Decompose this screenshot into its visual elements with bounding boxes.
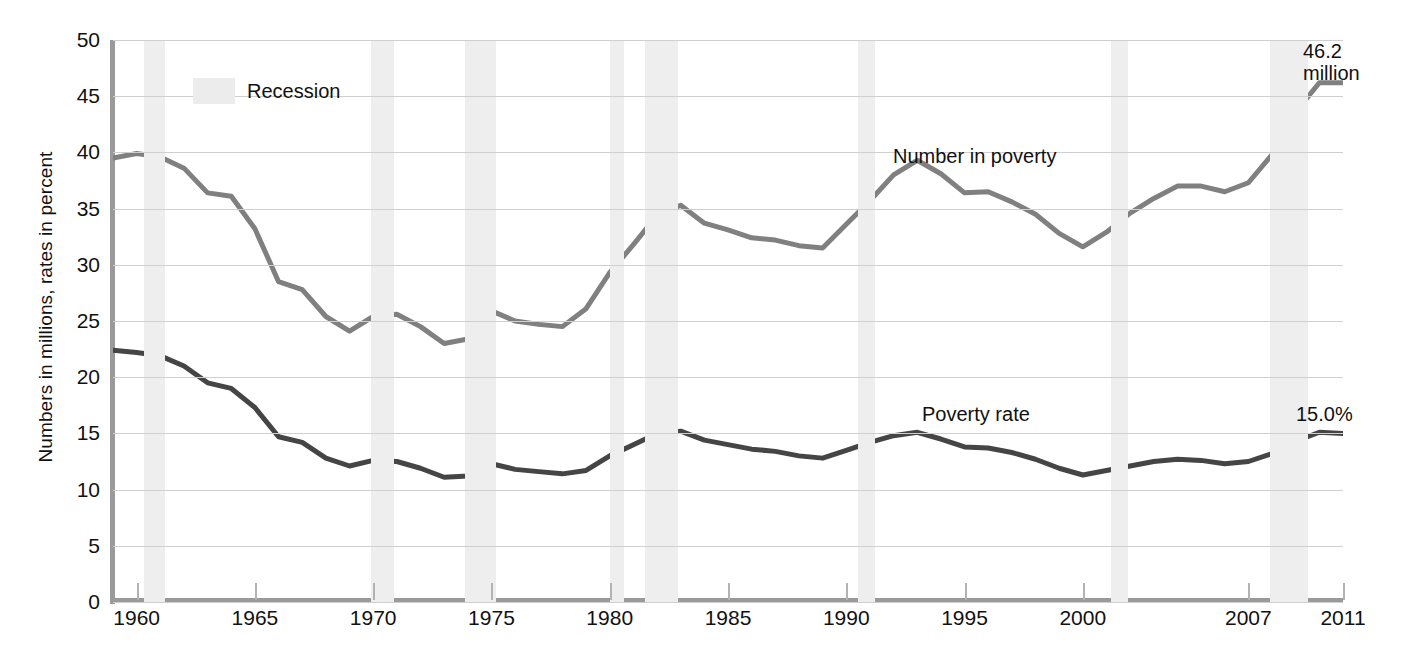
x-tick-label: 1985	[705, 606, 752, 630]
gridline	[113, 490, 1343, 491]
poverty-chart-figure: Numbers in millions, rates in percent 05…	[0, 0, 1403, 658]
x-tick-mark	[1343, 583, 1345, 600]
gridline	[113, 433, 1343, 434]
series-line-poverty-rate	[113, 350, 1343, 477]
x-tick-label: 1990	[823, 606, 870, 630]
y-tick-label: 35	[48, 198, 100, 219]
gridline	[113, 377, 1343, 378]
x-tick-mark	[1248, 583, 1250, 600]
x-tick-label: 1970	[350, 606, 397, 630]
gridline	[113, 265, 1343, 266]
x-tick-mark	[137, 583, 139, 600]
x-tick-label: 2000	[1059, 606, 1106, 630]
legend: Recession	[193, 78, 340, 104]
y-axis-tick-labels: 05101520253035404550	[48, 0, 100, 658]
series-label-number-in-poverty: Number in poverty	[893, 145, 1056, 167]
series-label-poverty-rate: Poverty rate	[922, 403, 1030, 425]
gridline	[113, 546, 1343, 547]
y-tick-label: 45	[48, 85, 100, 106]
y-tick-label: 5	[48, 535, 100, 556]
gridline	[113, 209, 1343, 210]
x-tick-label: 1980	[586, 606, 633, 630]
x-tick-label: 1975	[468, 606, 515, 630]
y-tick-label: 10	[48, 479, 100, 500]
x-tick-label: 2011	[1320, 606, 1365, 630]
y-tick-label: 40	[48, 141, 100, 162]
y-tick-label: 20	[48, 366, 100, 387]
recession-legend-swatch	[193, 78, 235, 104]
x-tick-label: 1960	[113, 606, 160, 630]
x-tick-label: 2007	[1225, 606, 1272, 630]
recession-legend-label: Recession	[247, 80, 340, 103]
x-tick-mark	[846, 583, 848, 600]
plot-area	[113, 40, 1343, 602]
endpoint-unit-number: million	[1303, 62, 1360, 84]
endpoint-label-poverty-rate: 15.0%	[1296, 403, 1353, 425]
y-tick-label: 0	[48, 591, 100, 612]
x-tick-mark	[373, 583, 375, 600]
y-tick-label: 25	[48, 310, 100, 331]
y-tick-label: 50	[48, 29, 100, 50]
y-tick-label: 15	[48, 422, 100, 443]
x-tick-label: 1965	[232, 606, 279, 630]
x-tick-label: 1995	[941, 606, 988, 630]
x-tick-mark	[491, 583, 493, 600]
gridline	[113, 40, 1343, 41]
x-tick-mark	[965, 583, 967, 600]
gridline	[113, 602, 1343, 603]
x-tick-mark	[728, 583, 730, 600]
x-tick-mark	[1083, 583, 1085, 600]
x-tick-mark	[255, 583, 257, 600]
x-tick-mark	[610, 583, 612, 600]
series-line-number-in-poverty	[113, 83, 1343, 344]
gridline	[113, 321, 1343, 322]
gridline	[113, 152, 1343, 153]
endpoint-value-number: 46.2	[1303, 40, 1360, 62]
endpoint-label-number-in-poverty: 46.2 million	[1303, 40, 1360, 85]
y-tick-label: 30	[48, 254, 100, 275]
